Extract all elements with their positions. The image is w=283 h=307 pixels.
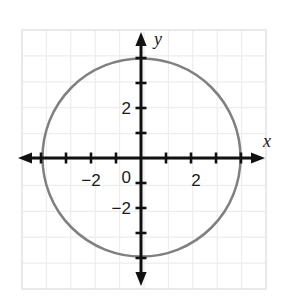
coordinate-plane-svg: −2 2 2 −2 0 x y xyxy=(0,0,283,307)
x-axis-label: x xyxy=(262,131,271,151)
y-tick-label-neg2: −2 xyxy=(112,199,131,218)
origin-label: 0 xyxy=(122,168,131,187)
x-tick-label-2: 2 xyxy=(191,171,200,190)
y-axis-label: y xyxy=(152,29,162,49)
graph-figure: −2 2 2 −2 0 x y xyxy=(0,0,283,307)
x-tick-label-neg2: −2 xyxy=(81,171,100,190)
y-tick-label-2: 2 xyxy=(122,99,131,118)
